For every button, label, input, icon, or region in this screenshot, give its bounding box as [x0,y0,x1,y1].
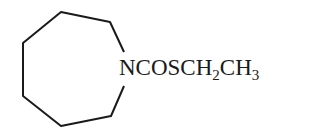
formula-subscript-3: 3 [252,67,260,83]
formula-part-ch: CH [220,55,252,80]
formula-subscript-2: 2 [212,67,220,83]
substituent-formula: NCOSCH2CH3 [119,55,259,81]
formula-part-ncosch: NCOSCH [119,55,212,80]
ring-bonds [23,12,124,126]
